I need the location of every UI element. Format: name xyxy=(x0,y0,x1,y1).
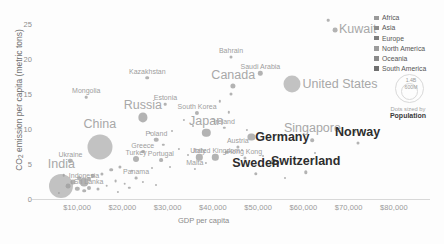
point-label: Russia xyxy=(124,98,162,112)
legend-item-label: Europe xyxy=(382,34,404,43)
size-legend: 1.4B 600M xyxy=(388,74,434,104)
data-point-unlabeled[interactable] xyxy=(128,187,130,189)
data-point[interactable] xyxy=(356,142,359,145)
point-label: India xyxy=(48,157,75,171)
data-point-unlabeled[interactable] xyxy=(96,188,99,191)
legend-item-label: South America xyxy=(382,64,426,73)
data-point[interactable] xyxy=(284,75,301,92)
data-point-unlabeled[interactable] xyxy=(246,129,248,131)
data-point-unlabeled[interactable] xyxy=(155,184,157,186)
point-label: United States xyxy=(303,77,378,91)
point-label: Kazakhstan xyxy=(129,67,166,74)
legend-swatch-icon xyxy=(374,36,379,41)
data-point-unlabeled[interactable] xyxy=(182,119,184,121)
data-point[interactable] xyxy=(164,103,167,106)
point-label: Greece xyxy=(131,141,154,148)
point-label: Portugal xyxy=(148,149,174,156)
data-point[interactable] xyxy=(146,76,150,80)
data-point[interactable] xyxy=(304,171,307,174)
co2-gdp-scatter-chart: CO2 emission per capita (metric tons) 05… xyxy=(0,0,444,244)
data-point[interactable] xyxy=(154,137,159,142)
size-legend-caption-strong: Population xyxy=(374,112,442,119)
data-point-unlabeled[interactable] xyxy=(82,189,86,193)
legend-item-asia[interactable]: Asia xyxy=(374,23,442,33)
legend-item-south-america[interactable]: South America xyxy=(374,64,442,74)
data-point-unlabeled[interactable] xyxy=(178,148,180,150)
legend-swatch-icon xyxy=(374,66,379,71)
point-label: Ukraine xyxy=(58,150,82,157)
legend-item-oceania[interactable]: Oceania xyxy=(374,54,442,64)
data-point-unlabeled[interactable] xyxy=(228,111,230,113)
data-point[interactable] xyxy=(223,127,225,129)
point-label: Austria xyxy=(227,136,249,143)
data-point[interactable] xyxy=(85,96,88,99)
data-point-unlabeled[interactable] xyxy=(109,168,113,172)
legend-item-label: Oceania xyxy=(382,54,407,63)
data-point-unlabeled[interactable] xyxy=(114,179,117,182)
point-label: Switzerland xyxy=(271,154,340,168)
point-label: Panama xyxy=(123,168,149,175)
legend-item-africa[interactable]: Africa xyxy=(374,13,442,23)
legend-swatch-icon xyxy=(374,16,379,21)
data-point[interactable] xyxy=(254,172,257,175)
data-point[interactable] xyxy=(194,168,196,170)
point-label: Malta xyxy=(186,158,203,165)
data-point[interactable] xyxy=(333,28,338,33)
point-label: Ireland xyxy=(214,117,235,124)
data-point-unlabeled[interactable] xyxy=(218,100,220,102)
data-point-unlabeled[interactable] xyxy=(117,191,119,193)
legend-swatch-icon xyxy=(374,56,379,61)
point-label: Sri Lanka xyxy=(74,177,104,184)
point-label: Poland xyxy=(145,129,167,136)
data-point-unlabeled[interactable] xyxy=(142,181,144,183)
data-point[interactable] xyxy=(230,56,233,59)
region-legend: AfricaAsiaEuropeNorth AmericaOceaniaSout… xyxy=(374,13,442,74)
size-legend-large-label: 1.4B xyxy=(388,77,434,83)
data-point[interactable] xyxy=(87,186,91,190)
legend-swatch-icon xyxy=(374,46,379,51)
data-point[interactable] xyxy=(133,156,139,162)
y-tick-mark xyxy=(32,199,37,200)
data-point-unlabeled[interactable] xyxy=(151,167,153,169)
data-point-unlabeled[interactable] xyxy=(101,172,104,175)
data-point-unlabeled[interactable] xyxy=(284,177,286,179)
data-point-unlabeled[interactable] xyxy=(169,166,171,168)
size-legend-small-label: 600M xyxy=(388,84,434,90)
legend-item-label: North America xyxy=(382,44,425,53)
data-point[interactable] xyxy=(311,139,315,143)
point-label: Norway xyxy=(335,125,380,139)
legend-swatch-icon xyxy=(374,26,379,31)
point-label: Singapore xyxy=(284,121,341,135)
legend-item-north-america[interactable]: North America xyxy=(374,44,442,54)
legend-item-label: Asia xyxy=(382,23,395,32)
data-point[interactable] xyxy=(212,154,218,160)
data-point-unlabeled[interactable] xyxy=(230,93,233,96)
legend-item-europe[interactable]: Europe xyxy=(374,33,442,43)
point-label: Kuwait xyxy=(339,22,377,36)
point-label: Hong Kong xyxy=(227,147,262,154)
data-point-unlabeled[interactable] xyxy=(75,186,79,190)
data-point-unlabeled[interactable] xyxy=(123,182,126,185)
data-point[interactable] xyxy=(135,177,138,180)
point-label: Bahrain xyxy=(219,47,243,54)
data-point-unlabeled[interactable] xyxy=(119,165,122,168)
data-point[interactable] xyxy=(231,83,236,88)
data-point-unlabeled[interactable] xyxy=(187,154,189,156)
data-point[interactable] xyxy=(87,135,112,160)
point-label: Mongolia xyxy=(72,87,100,94)
point-label: Turkey xyxy=(125,148,146,155)
point-label: South Korea xyxy=(178,103,217,110)
legend-item-label: Africa xyxy=(382,13,399,22)
data-point[interactable] xyxy=(202,128,210,136)
data-point-unlabeled[interactable] xyxy=(105,184,108,187)
point-label: Canada xyxy=(211,68,255,82)
point-label: China xyxy=(83,117,116,131)
data-point[interactable] xyxy=(258,71,262,75)
data-point-unlabeled[interactable] xyxy=(162,143,164,145)
data-point[interactable] xyxy=(138,113,147,122)
data-point[interactable] xyxy=(159,158,163,162)
data-point-unlabeled[interactable] xyxy=(205,162,207,164)
data-point-unlabeled[interactable] xyxy=(171,130,173,132)
data-point-unlabeled[interactable] xyxy=(327,19,330,22)
